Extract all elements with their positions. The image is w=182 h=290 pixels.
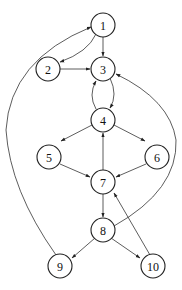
node-1: 1 bbox=[91, 13, 115, 37]
node-label: 2 bbox=[45, 63, 51, 77]
node-7: 7 bbox=[91, 170, 115, 194]
node-label: 1 bbox=[100, 19, 106, 33]
edge-4-to-3 bbox=[92, 81, 96, 109]
edge-3-to-4 bbox=[110, 78, 114, 108]
edge-6-to-7 bbox=[116, 164, 146, 177]
node-3: 3 bbox=[91, 57, 115, 81]
node-9: 9 bbox=[48, 254, 72, 278]
node-5: 5 bbox=[37, 145, 61, 169]
edges-layer bbox=[6, 27, 176, 258]
node-8: 8 bbox=[91, 218, 115, 242]
node-label: 3 bbox=[100, 63, 106, 77]
node-label: 9 bbox=[57, 260, 63, 274]
edge-5-to-7 bbox=[60, 164, 90, 177]
node-label: 5 bbox=[46, 151, 52, 165]
node-label: 8 bbox=[100, 224, 106, 238]
edge-1-to-2 bbox=[60, 34, 96, 62]
node-label: 10 bbox=[147, 260, 159, 274]
edge-4-to-6 bbox=[114, 125, 145, 141]
edge-8-to-10 bbox=[111, 238, 140, 258]
node-label: 4 bbox=[100, 114, 106, 128]
node-4: 4 bbox=[91, 108, 115, 132]
node-10: 10 bbox=[141, 254, 165, 278]
node-2: 2 bbox=[36, 57, 60, 81]
nodes-layer: 12345678910 bbox=[36, 13, 169, 278]
edge-4-to-5 bbox=[61, 125, 92, 141]
node-label: 7 bbox=[100, 176, 106, 190]
node-label: 6 bbox=[154, 151, 160, 165]
edge-8-to-9 bbox=[72, 238, 95, 258]
node-6: 6 bbox=[145, 145, 169, 169]
directed-graph: 12345678910 bbox=[0, 0, 182, 290]
edge-10-to-7 bbox=[114, 193, 150, 255]
